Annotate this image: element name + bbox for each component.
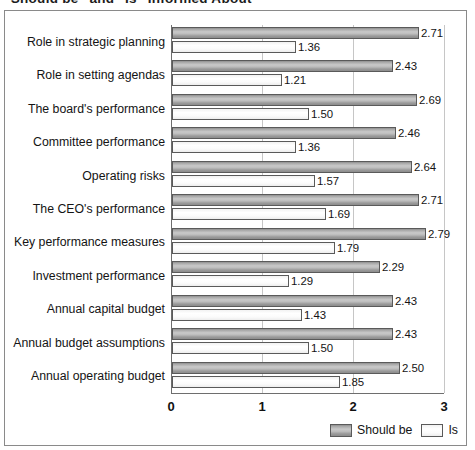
bar-value-label: 1.69: [328, 208, 350, 220]
bar-row: Annual budget assumptions2.431.50: [171, 326, 444, 359]
bar-should-be[interactable]: 2.71: [172, 194, 419, 206]
bar-row: Key performance measures2.791.79: [171, 226, 444, 259]
plot-area: Role in strategic planning2.711.36Role i…: [171, 25, 444, 393]
bar-value-label: 2.50: [402, 362, 424, 374]
bar-row: Role in setting agendas2.431.21: [171, 58, 444, 91]
bar-is[interactable]: 1.21: [172, 74, 282, 86]
category-label: The board's performance: [28, 102, 165, 116]
bar-value-label: 1.50: [311, 108, 333, 120]
bar-row: Role in strategic planning2.711.36: [171, 25, 444, 58]
legend-item[interactable]: Is: [421, 423, 458, 437]
bar-should-be[interactable]: 2.43: [172, 295, 393, 307]
bar-is[interactable]: 1.43: [172, 309, 302, 321]
category-label: Annual operating budget: [31, 369, 165, 383]
legend-label: Should be: [357, 423, 412, 437]
bar-value-label: 1.85: [342, 376, 364, 388]
bar-should-be[interactable]: 2.79: [172, 228, 426, 240]
bar-value-label: 2.43: [395, 60, 417, 72]
legend-swatch-should-be: [330, 424, 352, 437]
chart-frame: Role in strategic planning2.711.36Role i…: [4, 10, 467, 446]
bar-is[interactable]: 1.36: [172, 41, 296, 53]
bar-row: The board's performance2.691.50: [171, 92, 444, 125]
x-tick-label: 1: [258, 399, 265, 414]
legend-label: Is: [448, 423, 458, 437]
x-tick-label: 2: [349, 399, 356, 414]
bar-value-label: 2.69: [419, 94, 441, 106]
chart-title-strip: "Should be" and "Is" Informed About: [0, 0, 475, 9]
bar-is[interactable]: 1.57: [172, 175, 315, 187]
gridline: [444, 25, 445, 393]
bar-value-label: 1.50: [311, 342, 333, 354]
bar-is[interactable]: 1.29: [172, 275, 289, 287]
category-label: Operating risks: [82, 169, 165, 183]
bar-value-label: 2.29: [382, 261, 404, 273]
bar-row: Investment performance2.291.29: [171, 259, 444, 292]
bar-value-label: 1.36: [298, 41, 320, 53]
bar-is[interactable]: 1.50: [172, 108, 309, 120]
bar-value-label: 2.64: [414, 161, 436, 173]
legend-swatch-is: [421, 424, 443, 437]
x-tick-label: 0: [167, 399, 174, 414]
bar-should-be[interactable]: 2.50: [172, 362, 400, 374]
category-label: Investment performance: [32, 269, 165, 283]
bar-should-be[interactable]: 2.69: [172, 94, 417, 106]
category-label: Annual budget assumptions: [13, 336, 165, 350]
category-label: Role in setting agendas: [36, 68, 165, 82]
bar-value-label: 2.79: [428, 228, 450, 240]
bar-value-label: 1.79: [337, 242, 359, 254]
bar-row: Operating risks2.641.57: [171, 159, 444, 192]
x-tick-label: 3: [440, 399, 447, 414]
bar-should-be[interactable]: 2.46: [172, 127, 396, 139]
bar-value-label: 1.43: [304, 309, 326, 321]
bar-is[interactable]: 1.69: [172, 208, 326, 220]
bar-is[interactable]: 1.36: [172, 141, 296, 153]
bar-is[interactable]: 1.79: [172, 242, 335, 254]
bar-value-label: 2.71: [421, 27, 443, 39]
bar-value-label: 2.71: [421, 194, 443, 206]
bar-row: Annual capital budget2.431.43: [171, 293, 444, 326]
category-label: The CEO's performance: [33, 202, 165, 216]
category-label: Annual capital budget: [47, 302, 165, 316]
bar-is[interactable]: 1.85: [172, 376, 340, 388]
bar-should-be[interactable]: 2.64: [172, 161, 412, 173]
bar-value-label: 2.43: [395, 295, 417, 307]
bar-value-label: 1.57: [317, 175, 339, 187]
bar-value-label: 2.43: [395, 328, 417, 340]
category-label: Committee performance: [33, 135, 165, 149]
x-axis-line: [171, 393, 444, 394]
category-label: Role in strategic planning: [27, 35, 165, 49]
page-title: "Should be" and "Is" Informed About: [4, 0, 252, 6]
bar-row: The CEO's performance2.711.69: [171, 192, 444, 225]
legend-item[interactable]: Should be: [330, 423, 412, 437]
bar-is[interactable]: 1.50: [172, 342, 309, 354]
bar-row: Committee performance2.461.36: [171, 125, 444, 158]
bar-row: Annual operating budget2.501.85: [171, 360, 444, 393]
chart-legend: Should beIs: [330, 423, 458, 437]
bar-should-be[interactable]: 2.43: [172, 328, 393, 340]
bar-should-be[interactable]: 2.71: [172, 27, 419, 39]
bar-value-label: 1.21: [284, 74, 306, 86]
category-label: Key performance measures: [14, 235, 165, 249]
bar-value-label: 2.46: [398, 127, 420, 139]
bar-value-label: 1.36: [298, 141, 320, 153]
bar-should-be[interactable]: 2.43: [172, 60, 393, 72]
bar-should-be[interactable]: 2.29: [172, 261, 380, 273]
bar-value-label: 1.29: [291, 275, 313, 287]
